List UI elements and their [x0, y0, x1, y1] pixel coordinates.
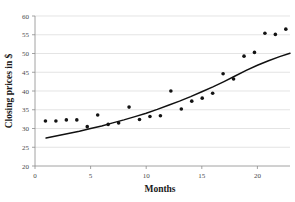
y-tick-label-50: 50 — [22, 50, 30, 58]
data-point — [54, 119, 58, 123]
data-point — [127, 105, 131, 109]
x-tick-label-0: 0 — [33, 172, 37, 180]
chart-canvas: 60 55 50 45 40 35 30 25 20 0 5 10 15 20 … — [0, 0, 295, 202]
y-tick-label-60: 60 — [22, 13, 30, 21]
data-point — [159, 114, 163, 118]
x-axis-title: Months — [144, 184, 175, 194]
data-point — [169, 89, 173, 93]
data-point — [75, 118, 79, 122]
y-tick-label-45: 45 — [22, 69, 30, 77]
data-point — [180, 107, 184, 111]
data-point — [106, 123, 110, 127]
scatter-chart-figure: 60 55 50 45 40 35 30 25 20 0 5 10 15 20 … — [0, 0, 295, 202]
data-point — [85, 125, 89, 129]
data-point — [96, 113, 100, 117]
data-point — [221, 72, 225, 76]
y-tick-label-25: 25 — [22, 144, 30, 152]
y-tick-labels-group: 60 55 50 45 40 35 30 25 20 — [22, 13, 30, 171]
x-tick-label-15: 15 — [198, 172, 206, 180]
y-tick-label-20: 20 — [22, 163, 30, 171]
data-point — [253, 51, 257, 55]
data-point — [211, 91, 215, 95]
data-point — [263, 31, 267, 35]
data-point — [65, 118, 69, 122]
x-tick-label-5: 5 — [89, 172, 93, 180]
x-tick-label-20: 20 — [254, 172, 262, 180]
y-tick-label-35: 35 — [22, 106, 30, 114]
x-tick-label-10: 10 — [143, 172, 151, 180]
data-point — [274, 33, 278, 37]
data-point — [242, 54, 246, 58]
y-tick-label-55: 55 — [22, 31, 30, 39]
data-point — [232, 77, 236, 81]
data-point — [44, 119, 48, 123]
y-axis-title: Closing prices in $ — [4, 53, 14, 128]
data-point — [148, 115, 152, 119]
data-point — [190, 99, 194, 103]
data-point — [200, 96, 204, 100]
data-point — [138, 118, 142, 122]
data-point — [117, 121, 121, 125]
data-point — [284, 27, 288, 31]
y-tick-label-30: 30 — [22, 125, 30, 133]
y-tick-label-40: 40 — [22, 88, 30, 96]
